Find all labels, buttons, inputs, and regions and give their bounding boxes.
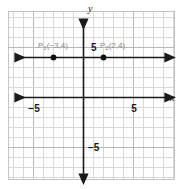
point-p2 [101,55,107,61]
x-tick-label-5: 5 [131,103,137,114]
y-axis-letter: y [87,3,93,14]
graph-canvas: P1(−3,4) P2(2,4) −5 5 5 −5 x y [0,0,182,189]
point-p2-label: P2(2,4) [100,41,125,51]
point-p1-label-coords: (−3,4) [47,41,68,50]
x-axis-letter: x [169,92,175,103]
x-tick-label-neg5: −5 [28,103,40,114]
y-tick-label-neg5: −5 [88,142,100,153]
point-p1-label: P1(−3,4) [38,41,68,51]
point-p2-label-coords: (2,4) [109,41,126,50]
coordinate-plane-figure: P1(−3,4) P2(2,4) −5 5 5 −5 x y [0,0,182,189]
point-p1 [51,55,57,61]
y-tick-label-5: 5 [91,42,97,53]
